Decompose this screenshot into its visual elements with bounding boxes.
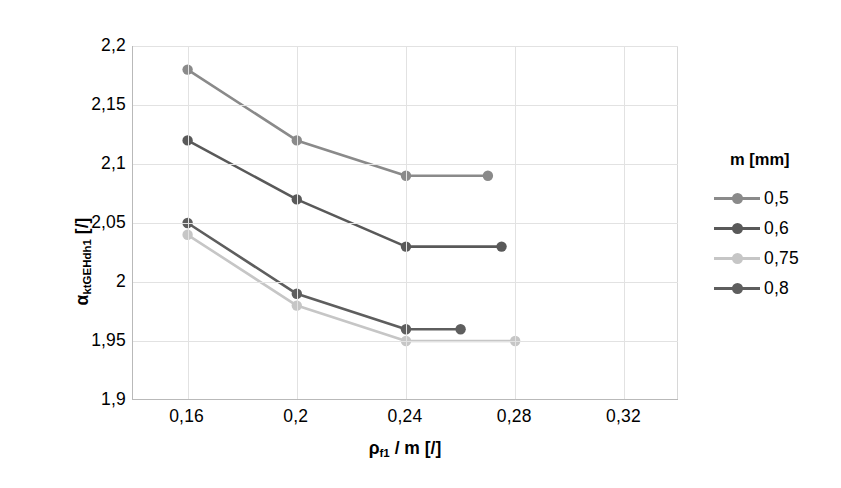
legend-item[interactable]: 0,6: [714, 213, 834, 243]
legend-item[interactable]: 0,5: [714, 183, 834, 213]
x-axis-tick-label: 0,16: [152, 406, 222, 426]
data-point: [455, 324, 465, 334]
data-point: [496, 241, 506, 251]
legend-title: m [mm]: [714, 150, 834, 169]
legend-swatch-icon: [714, 251, 760, 265]
x-axis-tick-label: 0,2: [261, 406, 331, 426]
x-axis-tick-label: 0,32: [588, 406, 658, 426]
plot-area: [132, 46, 678, 400]
legend: m [mm] 0,50,60,750,8: [714, 150, 834, 303]
y-axis-title-symbol: α: [72, 295, 92, 306]
legend-swatch-icon: [714, 281, 760, 295]
legend-marker-dot: [732, 223, 743, 234]
x-axis-tick-label: 0,24: [370, 406, 440, 426]
x-axis-tick-labels: 0,160,20,240,280,32: [132, 406, 678, 432]
legend-label: 0,75: [764, 248, 799, 269]
gridline-vertical: [406, 46, 407, 399]
gridline-vertical: [515, 46, 516, 399]
legend-label: 0,8: [764, 278, 789, 299]
y-axis-title-holder: αktGEHdh1 [/]: [22, 46, 62, 400]
y-axis-tick-label: 2,15: [80, 96, 126, 114]
series-line: [188, 235, 516, 341]
legend-marker-dot: [732, 193, 743, 204]
legend-item[interactable]: 0,75: [714, 243, 834, 273]
legend-marker-dot: [732, 253, 743, 264]
series-0-8: [182, 218, 465, 335]
plot-wrapper: 1,91,9522,052,12,152,2 αktGEHdh1 [/] 0,1…: [0, 0, 700, 488]
x-axis-title-subscript: f1: [380, 447, 390, 459]
y-axis-title-unit: [/]: [72, 218, 92, 239]
chart-root: 1,91,9522,052,12,152,2 αktGEHdh1 [/] 0,1…: [0, 0, 841, 488]
legend-label: 0,6: [764, 218, 789, 239]
legend-swatch-icon: [714, 191, 760, 205]
x-axis-title: ρf1 / m [/]: [132, 438, 678, 459]
x-axis-title-unit: / m [/]: [390, 438, 442, 458]
series-line: [188, 70, 488, 176]
y-axis-title: αktGEHdh1 [/]: [72, 132, 93, 392]
legend-marker-dot: [732, 283, 743, 294]
x-axis-title-symbol: ρ: [369, 438, 380, 458]
data-point: [483, 171, 493, 181]
gridline-vertical: [297, 46, 298, 399]
series-0-6: [182, 135, 506, 252]
y-axis-tick-label: 2,2: [80, 37, 126, 55]
x-axis-tick-label: 0,28: [479, 406, 549, 426]
y-axis-tick-label: 1,9: [80, 391, 126, 409]
legend-item[interactable]: 0,8: [714, 273, 834, 303]
legend-swatch-icon: [714, 221, 760, 235]
legend-items: 0,50,60,750,8: [714, 183, 834, 303]
gridline-vertical: [188, 46, 189, 399]
legend-label: 0,5: [764, 188, 789, 209]
y-axis-title-subscript: ktGEHdh1: [81, 239, 93, 295]
gridline-vertical: [624, 46, 625, 399]
